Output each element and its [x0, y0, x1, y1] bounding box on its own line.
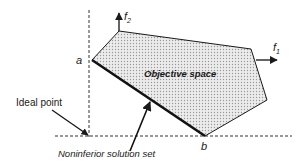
ideal-point-arrow [52, 110, 88, 135]
objective-space-diagram: f2 f1 a b Objective space Ideal point No… [0, 0, 305, 165]
noninferior-solution-set-label: Noninferior solution set [58, 148, 156, 159]
point-b-label: b [201, 140, 207, 152]
ideal-point-label: Ideal point [16, 97, 62, 108]
axis-f1-label: f1 [273, 41, 280, 55]
objective-space-label: Objective space [144, 68, 217, 79]
point-a-label: a [76, 54, 82, 66]
axis-f2-label: f2 [124, 10, 131, 24]
noninferior-arrow [130, 102, 150, 151]
